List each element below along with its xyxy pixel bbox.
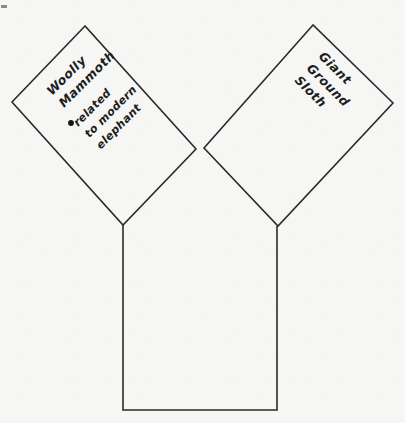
page-corner-artifact	[1, 5, 7, 8]
shared-traits-panel[interactable]	[123, 225, 277, 410]
giant-ground-sloth-panel-outline	[204, 25, 393, 226]
diagram-canvas: Woolly Mammoth related to modern elephan…	[0, 0, 405, 423]
y-chart-diagram: Woolly Mammoth related to modern elephan…	[0, 0, 405, 423]
giant-ground-sloth-panel[interactable]: Giant Ground Sloth	[204, 25, 393, 226]
shared-traits-panel-outline	[123, 225, 277, 410]
woolly-mammoth-panel[interactable]: Woolly Mammoth related to modern elephan…	[12, 26, 196, 225]
